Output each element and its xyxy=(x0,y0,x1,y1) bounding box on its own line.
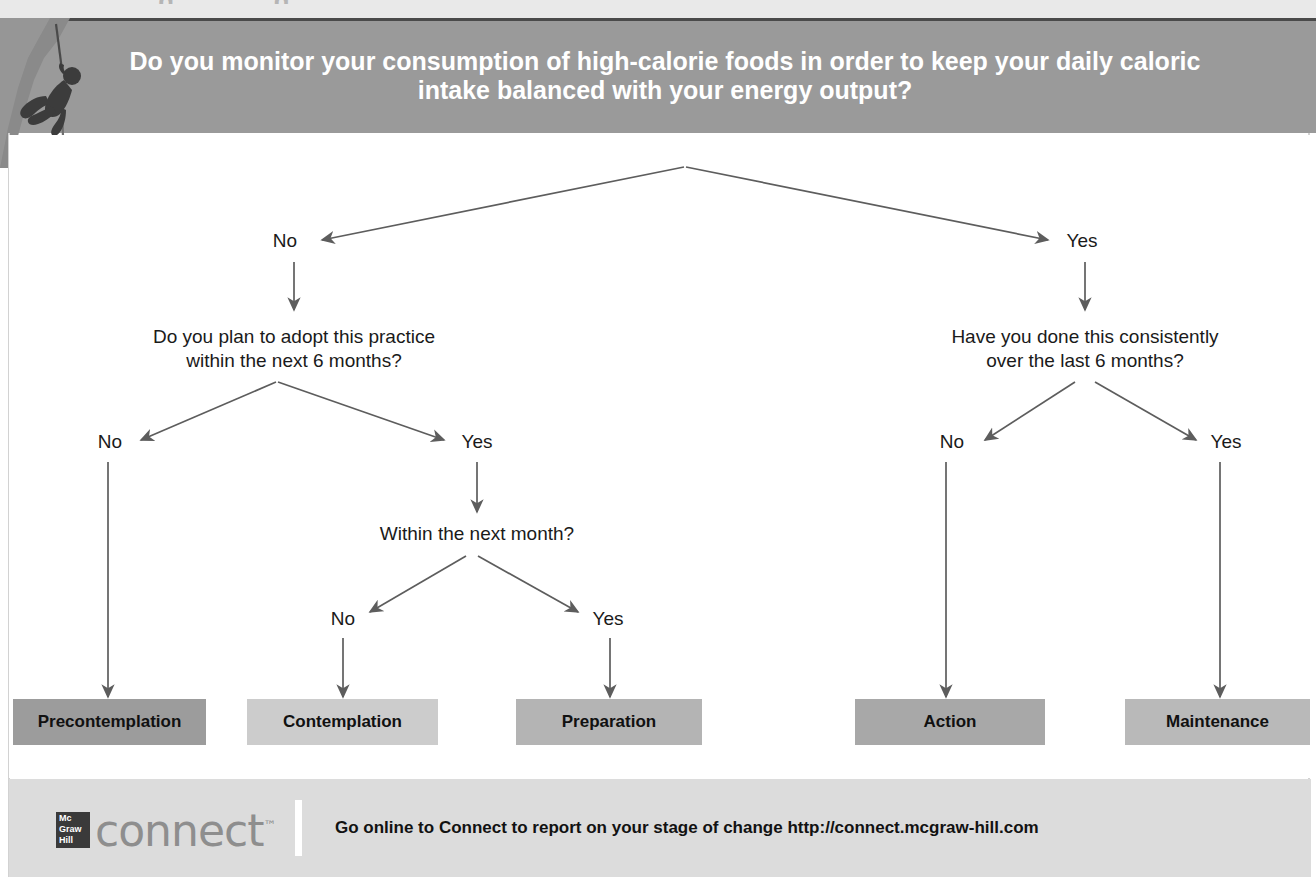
connect-wordmark: connect™ xyxy=(95,805,275,856)
cut-off-text-strip: g g xyxy=(0,0,1316,18)
flowchart-canvas xyxy=(9,135,1311,778)
stages-of-change-figure: g g Do you monitor your consumption of h… xyxy=(0,0,1316,877)
logo-line-3: Hill xyxy=(59,835,90,846)
logo-line-1: Mc xyxy=(59,813,90,824)
stage-label: Preparation xyxy=(562,712,656,732)
logo-line-2: Graw xyxy=(59,824,90,835)
stage-box-action[interactable]: Action xyxy=(855,699,1045,745)
header-band: Do you monitor your consumption of high-… xyxy=(0,21,1316,133)
cut-off-text: g g xyxy=(150,0,570,4)
footer-message: Go online to Connect to report on your s… xyxy=(335,818,1039,838)
stage-box-contemplation[interactable]: Contemplation xyxy=(247,699,438,745)
mcgraw-hill-logo: Mc Graw Hill xyxy=(56,812,90,848)
stage-label: Precontemplation xyxy=(38,712,182,732)
stage-label: Action xyxy=(924,712,977,732)
stage-box-precontemplation[interactable]: Precontemplation xyxy=(13,699,206,745)
connect-text: connect xyxy=(95,805,263,856)
footer-divider xyxy=(295,800,302,856)
stage-box-preparation[interactable]: Preparation xyxy=(516,699,702,745)
page-title: Do you monitor your consumption of high-… xyxy=(120,47,1210,106)
stage-box-maintenance[interactable]: Maintenance xyxy=(1125,699,1310,745)
stage-label: Contemplation xyxy=(283,712,402,732)
trademark-icon: ™ xyxy=(263,818,275,833)
stage-label: Maintenance xyxy=(1166,712,1269,732)
